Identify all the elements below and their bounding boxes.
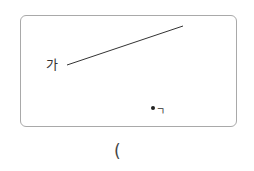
answer-blank-paren: ( [114,143,121,160]
line-segment [0,0,254,171]
label-giyeok: ㄱ [156,107,165,117]
point-dot [151,106,155,110]
label-ga: 가 [46,58,58,71]
